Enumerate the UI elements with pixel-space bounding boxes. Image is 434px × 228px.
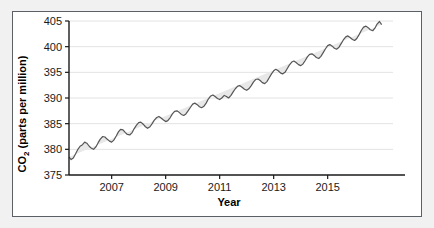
x-axis-tick-label: 2009 — [153, 181, 177, 193]
x-axis-tick-label: 2007 — [99, 181, 123, 193]
chart-panel: 405400395390385380375 200720092011201320… — [12, 11, 422, 217]
x-axis — [69, 175, 405, 179]
area-fill-path — [69, 22, 382, 160]
x-axis-tick-label: 2013 — [261, 181, 285, 193]
y-axis-tick-label: 390 — [44, 92, 62, 104]
area-fill — [69, 22, 382, 160]
y-axis-tick-labels: 405400395390385380375 — [44, 15, 62, 181]
y-axis-title-prefix: CO — [16, 156, 28, 173]
svg-text:CO2 (parts per million): CO2 (parts per million) — [16, 55, 31, 172]
data-line — [69, 22, 382, 160]
x-axis-title: Year — [217, 196, 241, 208]
y-axis-tick-label: 395 — [44, 66, 62, 78]
x-axis-tick-label: 2015 — [315, 181, 339, 193]
y-axis-tick-label: 385 — [44, 118, 62, 130]
y-axis — [65, 21, 69, 175]
x-axis-tick-label: 2011 — [208, 181, 232, 193]
y-axis-title: CO2 (parts per million) — [16, 55, 31, 172]
co2-area-chart: 405400395390385380375 200720092011201320… — [13, 12, 421, 216]
x-axis-tick-labels: 20072009201120132015 — [99, 181, 339, 193]
y-axis-tick-label: 405 — [44, 15, 62, 27]
y-axis-tick-label: 375 — [44, 169, 62, 181]
series-line-path — [69, 22, 382, 160]
y-axis-title-suffix: (parts per million) — [16, 55, 28, 151]
figure-container: 405400395390385380375 200720092011201320… — [0, 0, 434, 228]
y-axis-tick-label: 380 — [44, 143, 62, 155]
y-axis-tick-label: 400 — [44, 41, 62, 53]
